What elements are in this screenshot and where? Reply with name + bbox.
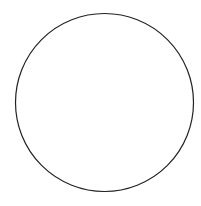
sphere-outline bbox=[16, 14, 194, 192]
sphere-diagram bbox=[0, 0, 201, 206]
